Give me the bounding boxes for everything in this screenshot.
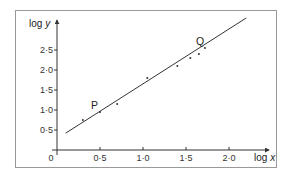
chart: 0·51·01·52·00·51·01·52·02·50 log xlog yP… [0,0,293,176]
x-tick-label: 2·0 [222,153,235,163]
y-tick-label: 2·0 [40,65,53,75]
origin-label: 0 [48,153,53,163]
data-point [99,111,101,113]
chart-frame [16,11,277,168]
data-point [204,47,206,49]
point-label-q: Q [196,35,204,47]
x-tick-label: 1·5 [179,153,192,163]
data-point [198,53,200,55]
data-point [189,57,191,59]
data-point [82,119,84,121]
data-point [116,103,118,105]
y-tick-label: 0·5 [40,125,53,135]
point-label-p: P [91,99,98,111]
y-axis-label: log y [29,18,51,29]
y-tick-label: 1·0 [40,105,53,115]
y-tick-label: 1·5 [40,85,53,95]
x-tick-label: 1·0 [136,153,149,163]
x-axis-label: log x [254,152,276,163]
x-tick-label: 0·5 [93,153,106,163]
data-point [176,65,178,67]
y-tick-label: 2·5 [40,45,53,55]
data-point [146,77,148,79]
